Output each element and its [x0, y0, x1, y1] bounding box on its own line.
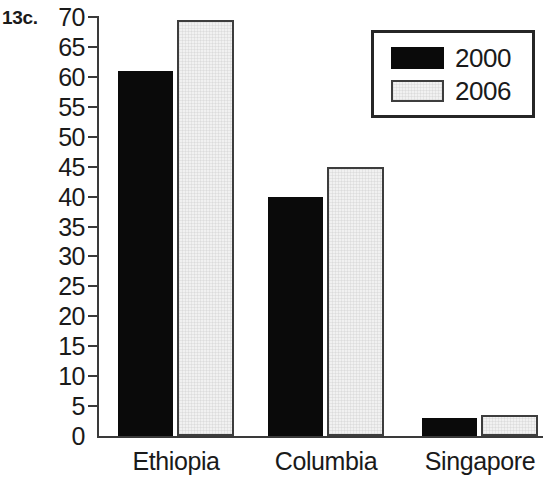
- legend-label-2000: 2000: [455, 45, 511, 71]
- y-tick-mark: [88, 255, 99, 257]
- y-tick-mark: [88, 46, 99, 48]
- y-tick-mark: [88, 16, 99, 18]
- y-tick-label: 65: [58, 34, 85, 59]
- y-tick-label: 5: [72, 394, 85, 419]
- y-tick-label: 25: [58, 274, 85, 299]
- y-tick-mark: [88, 345, 99, 347]
- bar-columbia-2006: [327, 167, 384, 436]
- y-tick-label: 60: [58, 64, 85, 89]
- category-label-singapore: Singapore: [425, 449, 535, 474]
- y-tick-mark: [88, 196, 99, 198]
- y-tick-label: 10: [58, 364, 85, 389]
- y-tick-mark: [88, 226, 99, 228]
- y-tick-label: 35: [58, 214, 85, 239]
- bar-singapore-2000: [422, 418, 477, 436]
- y-tick-label: 55: [58, 94, 85, 119]
- legend: 2000 2006: [371, 30, 535, 118]
- y-tick-mark: [88, 136, 99, 138]
- y-tick-mark: [88, 315, 99, 317]
- y-tick-mark: [88, 285, 99, 287]
- legend-swatch-2006: [391, 80, 444, 102]
- y-tick-mark: [88, 106, 99, 108]
- y-tick-label: 50: [58, 124, 85, 149]
- y-tick-label: 40: [58, 184, 85, 209]
- y-tick-mark: [88, 76, 99, 78]
- y-tick-label: 70: [58, 5, 85, 30]
- bar-ethiopia-2000: [118, 71, 173, 436]
- y-tick-label: 45: [58, 154, 85, 179]
- y-tick-label: 0: [72, 424, 85, 449]
- y-tick-mark: [88, 405, 99, 407]
- bar-ethiopia-2006: [177, 20, 234, 436]
- legend-entry-2006: 2006: [391, 78, 511, 104]
- figure-number-label: 13c.: [2, 8, 38, 27]
- y-tick-mark: [88, 375, 99, 377]
- y-tick-mark: [88, 166, 99, 168]
- y-tick-label: 20: [58, 304, 85, 329]
- bar-columbia-2000: [268, 197, 323, 436]
- legend-label-2006: 2006: [455, 78, 511, 104]
- category-label-ethiopia: Ethiopia: [132, 449, 219, 474]
- y-tick-label: 15: [58, 334, 85, 359]
- category-label-columbia: Columbia: [275, 449, 377, 474]
- y-tick-label: 30: [58, 244, 85, 269]
- x-axis-line: [97, 436, 543, 438]
- legend-entry-2000: 2000: [391, 45, 511, 71]
- figure-container: 13c. 7065605550454035302520151050 Ethiop…: [0, 0, 552, 484]
- bar-singapore-2006: [481, 415, 538, 436]
- legend-swatch-2000: [391, 47, 444, 69]
